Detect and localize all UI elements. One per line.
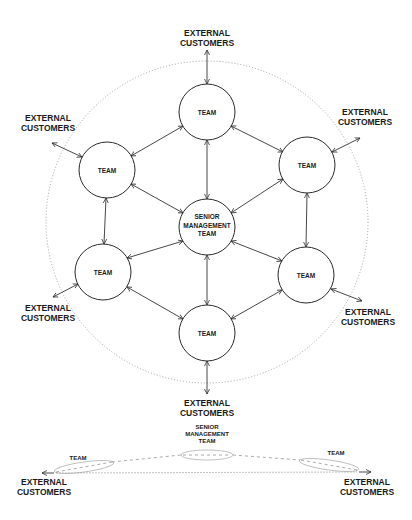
svg-text:EXTERNAL: EXTERNAL (345, 307, 391, 317)
svg-text:CUSTOMERS: CUSTOMERS (341, 317, 395, 327)
side-left-external-line1: EXTERNAL (21, 477, 67, 487)
svg-text:CUSTOMERS: CUSTOMERS (21, 313, 75, 323)
side-center-line1: SENIOR (195, 424, 219, 430)
team-label: TEAM (198, 109, 216, 116)
svg-text:CUSTOMERS: CUSTOMERS (180, 38, 234, 48)
external-label-top: EXTERNAL CUSTOMERS (180, 28, 234, 48)
side-center-line3: TEAM (199, 438, 216, 444)
team-label: TEAM (98, 167, 116, 174)
svg-text:EXTERNAL: EXTERNAL (342, 107, 388, 117)
center-label-line3: TEAM (198, 230, 216, 237)
external-label-upper-left: EXTERNAL CUSTOMERS (21, 113, 75, 133)
team-node-top: TEAM (179, 84, 235, 140)
team-node-lower-right: TEAM (278, 247, 334, 303)
svg-text:EXTERNAL: EXTERNAL (184, 398, 230, 408)
external-label-bottom: EXTERNAL CUSTOMERS (180, 398, 234, 418)
center-label-line2: MANAGEMENT (183, 222, 230, 229)
side-view-diagram: SENIOR MANAGEMENT TEAM TEAM TEAM EXTERNA… (17, 424, 394, 497)
external-label-upper-right: EXTERNAL CUSTOMERS (338, 107, 392, 127)
side-left-team-label: TEAM (70, 455, 87, 461)
side-left-external-line2: CUSTOMERS (17, 487, 71, 497)
svg-text:EXTERNAL: EXTERNAL (25, 113, 71, 123)
center-label-line1: SENIOR (195, 213, 220, 220)
team-label: TEAM (198, 330, 216, 337)
external-label-lower-left: EXTERNAL CUSTOMERS (21, 303, 75, 323)
side-right-team-ellipse (299, 456, 360, 474)
team-node-lower-left: TEAM (75, 244, 131, 300)
team-node-upper-right: TEAM (279, 137, 335, 193)
side-right-external-line1: EXTERNAL (344, 477, 390, 487)
team-label: TEAM (298, 162, 316, 169)
svg-text:CUSTOMERS: CUSTOMERS (338, 117, 392, 127)
svg-text:EXTERNAL: EXTERNAL (25, 303, 71, 313)
team-label: TEAM (297, 272, 315, 279)
team-label: TEAM (94, 269, 112, 276)
external-label-lower-right: EXTERNAL CUSTOMERS (341, 307, 395, 327)
organization-diagram: TEAM TEAM TEAM TEAM TEAM TEAM SENIOR MAN… (0, 0, 412, 520)
team-node-upper-left: TEAM (79, 142, 135, 198)
senior-management-node: SENIOR MANAGEMENT TEAM (179, 199, 235, 255)
svg-text:EXTERNAL: EXTERNAL (184, 28, 230, 38)
svg-text:CUSTOMERS: CUSTOMERS (21, 123, 75, 133)
side-right-team-label: TEAM (328, 450, 345, 456)
team-node-bottom: TEAM (179, 305, 235, 361)
side-right-external-line2: CUSTOMERS (340, 487, 394, 497)
svg-text:CUSTOMERS: CUSTOMERS (180, 408, 234, 418)
side-center-line2: MANAGEMENT (185, 431, 229, 437)
